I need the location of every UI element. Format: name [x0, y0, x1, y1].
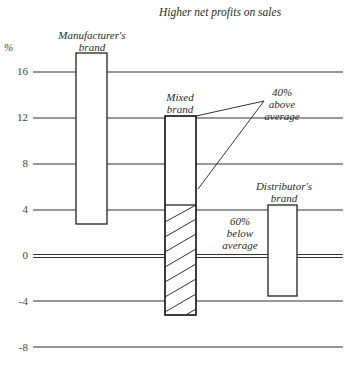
- label-mixed-line1: Mixed: [150, 91, 210, 103]
- annotation-above-line1: 40%: [254, 86, 310, 98]
- annotation-above-line2: above: [254, 98, 310, 110]
- label-distributor-line2: brand: [246, 192, 322, 204]
- annotation-below-average: 60% below average: [212, 215, 268, 251]
- annotation-above-line3: average: [254, 110, 310, 122]
- annotation-below-line2: below: [212, 227, 268, 239]
- label-manufacturer: Manufacturer's brand: [46, 29, 138, 53]
- annotation-below-line3: average: [212, 239, 268, 251]
- label-manufacturer-line1: Manufacturer's: [46, 29, 138, 41]
- label-mixed: Mixed brand: [150, 91, 210, 115]
- label-distributor-line1: Distributor's: [246, 180, 322, 192]
- label-manufacturer-line2: brand: [46, 41, 138, 53]
- annotation-below-line1: 60%: [212, 215, 268, 227]
- bar-manufacturer: [76, 53, 107, 224]
- annotation-above-average: 40% above average: [254, 86, 310, 122]
- bar-distributor: [268, 205, 297, 296]
- bar-mixed: [165, 116, 196, 315]
- label-mixed-line2: brand: [150, 103, 210, 115]
- label-distributor: Distributor's brand: [246, 180, 322, 204]
